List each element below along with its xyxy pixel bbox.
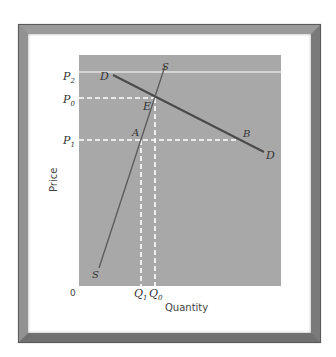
y-axis-title: Price: [48, 168, 59, 192]
point-b-label: B: [242, 128, 250, 139]
supply-label-bottom: S: [92, 269, 99, 280]
price-label-p2: P2: [62, 70, 75, 85]
price-label-p1: P1: [62, 134, 75, 149]
demand-label-end: D: [265, 149, 275, 162]
quantity-label-q0: Q0: [149, 287, 163, 302]
point-a-label: A: [131, 127, 139, 138]
demand-label-start: D: [99, 70, 109, 83]
price-label-p0: P0: [62, 93, 75, 108]
quantity-label-q1: Q1: [134, 287, 148, 302]
plot-area: [79, 55, 281, 286]
supply-demand-diagram: D D S S E A B P2 P0 P1 Q1 Q0 0 Quantity …: [0, 0, 336, 357]
x-axis-title: Quantity: [165, 302, 208, 313]
supply-label-top: S: [162, 61, 169, 72]
point-e-label: E: [142, 100, 151, 113]
origin-label: 0: [70, 288, 76, 298]
